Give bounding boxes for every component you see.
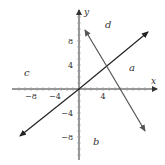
- y-tick-label: −4: [61, 109, 73, 118]
- x-axis-label: x: [151, 76, 156, 86]
- y-tick-label: 4: [68, 61, 73, 70]
- line-descending-lower: [106, 65, 145, 131]
- y-axis-label: y: [83, 7, 90, 17]
- x-axis: −8 −4 4 x: [12, 76, 157, 101]
- region-label-c: c: [24, 67, 30, 78]
- coordinate-plane: −8 −4 4 x 8 4 −4 −8 y a b: [0, 0, 165, 165]
- x-tick-label: −8: [25, 92, 37, 101]
- x-tick-label: −4: [49, 92, 61, 101]
- region-label-a: a: [129, 62, 135, 73]
- y-tick-label: 8: [68, 37, 73, 46]
- region-label-d: d: [105, 19, 111, 30]
- x-tick-label: 4: [100, 92, 105, 101]
- line-through-origin: [79, 32, 148, 89]
- line-descending-upper: [85, 30, 106, 65]
- y-tick-label: −8: [61, 133, 73, 142]
- region-label-b: b: [93, 136, 99, 147]
